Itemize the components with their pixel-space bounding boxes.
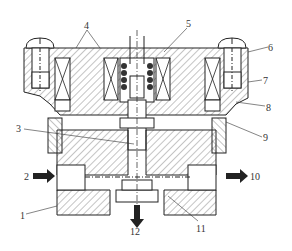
callout-6: 6 — [268, 42, 273, 53]
callout-2: 2 — [24, 171, 29, 182]
coil-left-outer — [55, 58, 70, 100]
guide-left — [48, 118, 62, 153]
callout-11: 11 — [196, 223, 206, 234]
guide-right — [212, 118, 226, 153]
coil-spacer-left — [55, 100, 70, 111]
callout-12: 12 — [130, 226, 140, 237]
coil-right-outer — [205, 58, 220, 100]
inlet-arrow — [33, 169, 55, 183]
callout-1: 1 — [20, 210, 25, 221]
valve-cross-section: 4 5 6 7 8 9 3 2 10 1 12 11 — [0, 0, 292, 251]
coil-right-inner — [156, 58, 170, 100]
coil-left-inner — [104, 58, 118, 100]
callout-5: 5 — [186, 18, 191, 29]
drain-arrow — [130, 205, 144, 228]
coil-spacer-right — [205, 100, 220, 111]
callout-3: 3 — [16, 123, 21, 134]
callout-9: 9 — [263, 132, 268, 143]
callout-7: 7 — [263, 75, 268, 86]
outlet-arrow — [226, 169, 248, 183]
callout-8: 8 — [266, 102, 271, 113]
callout-10: 10 — [250, 171, 260, 182]
callout-4: 4 — [84, 20, 89, 31]
